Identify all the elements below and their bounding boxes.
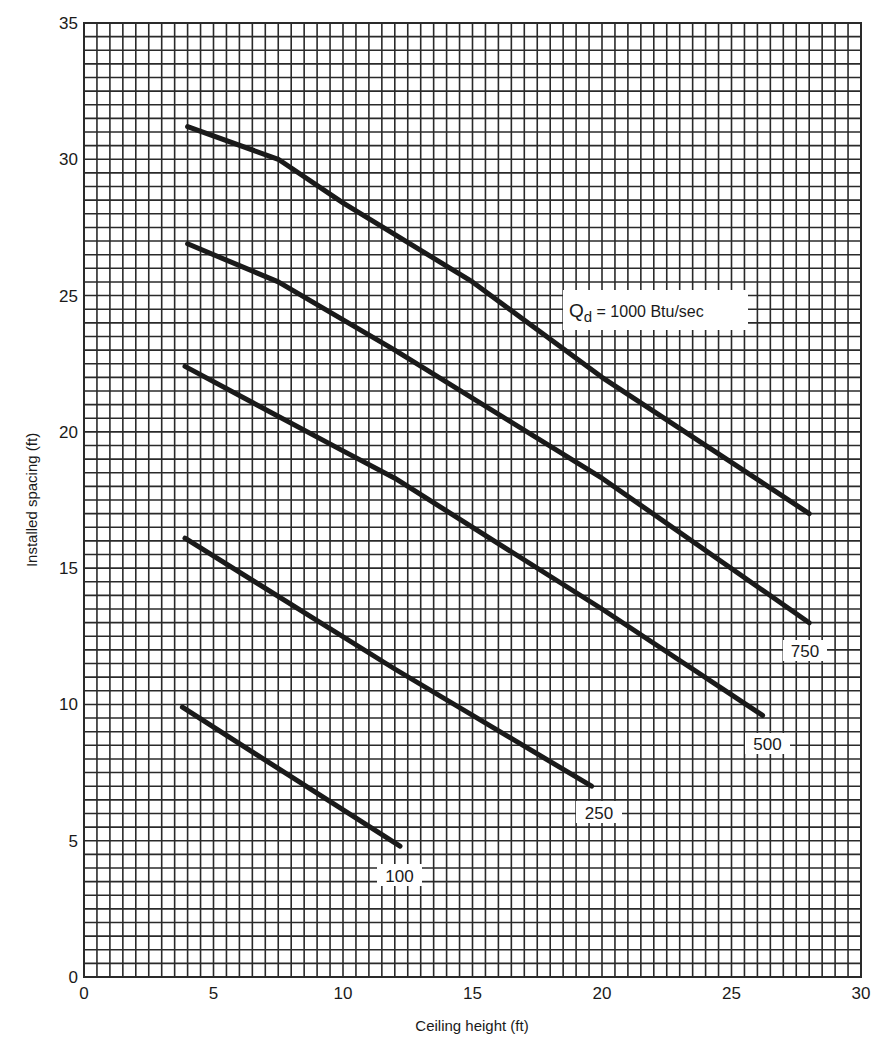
series-label-250: 250 [585,804,613,823]
x-tick-label: 30 [852,984,871,1003]
x-tick-label: 15 [463,984,482,1003]
x-tick-label: 5 [209,984,218,1003]
y-tick-label: 20 [59,423,78,442]
x-tick-label: 20 [593,984,612,1003]
y-axis-title: Installed spacing (ft) [23,433,40,567]
x-tick-label: 10 [334,984,353,1003]
y-tick-label: 10 [59,695,78,714]
y-tick-label: 25 [59,287,78,306]
y-tick-label: 30 [59,150,78,169]
x-axis-title: Ceiling height (ft) [415,1017,528,1034]
chart: Qd = 1000 Btu/sec750500250100 0510152025… [0,0,893,1057]
chart-svg: Qd = 1000 Btu/sec750500250100 0510152025… [0,0,893,1057]
series-label-100: 100 [385,867,413,886]
y-tick-label: 0 [69,968,78,987]
series-label-750: 750 [791,642,819,661]
grid [84,23,861,977]
y-tick-label: 35 [59,14,78,33]
x-tick-label: 25 [722,984,741,1003]
y-tick-label: 5 [69,832,78,851]
x-tick-label: 0 [79,984,88,1003]
y-tick-label: 15 [59,559,78,578]
series-label-500: 500 [753,735,781,754]
